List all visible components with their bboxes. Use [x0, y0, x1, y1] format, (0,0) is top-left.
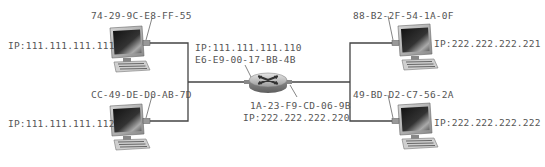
computer-icon: [110, 26, 150, 72]
host-mac-label: 88-B2-2F-54-1A-0F: [353, 10, 454, 21]
router-right-mac-label: 1A-23-F9-CD-06-9B: [250, 100, 351, 111]
computer-icon: [398, 103, 438, 149]
router-right-ip-label: IP:222.222.222.220: [243, 112, 350, 123]
computer-icon: [398, 24, 438, 70]
host-ip-label: IP:222.222.222.221: [434, 38, 541, 49]
host-ip-label: IP:111.111.111.111: [8, 40, 115, 51]
host-mac-label: 74-29-9C-E8-FF-55: [91, 10, 192, 21]
host-mac-label: CC-49-DE-D0-AB-7D: [91, 89, 192, 100]
router-left-mac-label: E6-E9-00-17-BB-4B: [195, 54, 296, 65]
host-ip-label: IP:111.111.111.112: [8, 118, 115, 129]
computer-icon: [110, 104, 150, 150]
host-ip-label: IP:222.222.222.222: [434, 117, 541, 128]
host-mac-label: 49-BD-D2-C7-56-2A: [353, 89, 454, 100]
router-left-ip-label: IP:111.111.111.110: [195, 42, 302, 53]
network-diagram: [0, 0, 545, 167]
router-icon: [244, 73, 292, 93]
